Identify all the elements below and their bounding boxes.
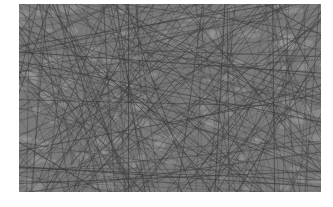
fiber-mesh-graphic — [19, 4, 321, 192]
fiber-texture-image — [19, 4, 321, 192]
